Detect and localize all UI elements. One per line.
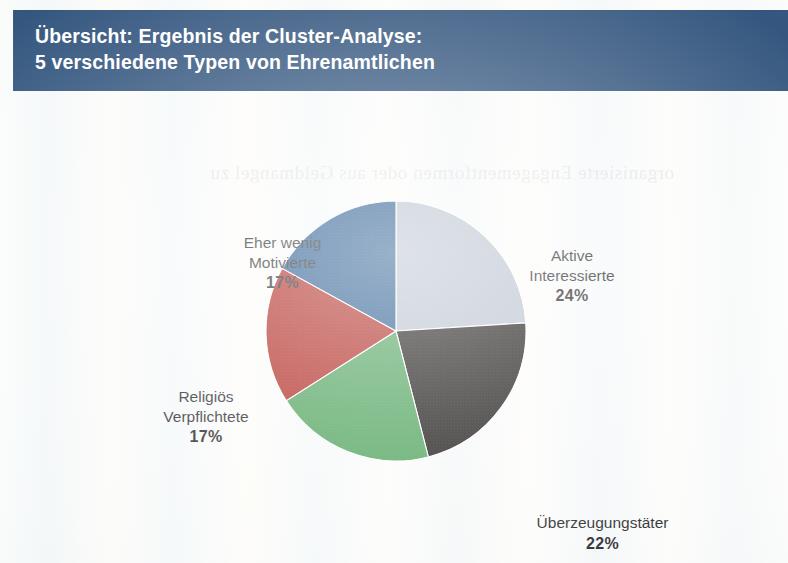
pie-label-eher-wenig-motivierte: Eher wenig Motivierte 17% [200,233,365,293]
figure-title-line-2: 5 verschiedene Typen von Ehrenamtlichen [35,49,788,75]
pie-label-ueberzeugungstaeter-percent: 22% [505,534,700,554]
pie-label-eher-wenig-motivierte-line2: Motivierte [249,254,316,271]
pie-label-aktive-interessierte: Aktive Interessierte 24% [482,246,662,306]
pie-label-religioes-verpflichtete: Religiös Verpflichtete 17% [120,387,292,447]
figure-title-line-1: Übersicht: Ergebnis der Cluster-Analyse: [35,23,788,49]
pie-label-eher-wenig-motivierte-line1: Eher wenig [244,234,322,251]
pie-label-eher-wenig-motivierte-percent: 17% [200,273,365,293]
pie-label-aktive-interessierte-line1: Aktive [551,247,593,264]
figure-title-bar: Übersicht: Ergebnis der Cluster-Analyse:… [13,10,788,91]
pie-chart-area: Eher wenig Motivierte 17% Aktive Interes… [0,91,788,563]
pie-label-ueberzeugungstaeter-line1: Überzeugungstäter [537,514,669,531]
pie-label-aktive-interessierte-percent: 24% [482,286,662,306]
pie-label-religioes-verpflichtete-line1: Religiös [178,388,233,405]
pie-label-aktive-interessierte-line2: Interessierte [529,267,614,284]
figure-page: organisierte Engagementformen oder aus G… [0,0,788,563]
pie-label-religioes-verpflichtete-line2: Verpflichtete [163,408,248,425]
pie-label-ueberzeugungstaeter: Überzeugungstäter 22% [505,513,700,553]
pie-label-religioes-verpflichtete-percent: 17% [120,427,292,447]
